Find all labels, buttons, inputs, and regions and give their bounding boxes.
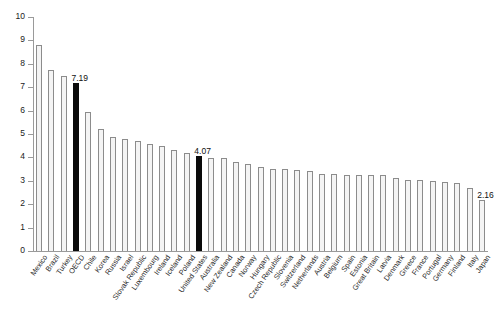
bar-poland[interactable] [184,153,190,251]
bar-austria[interactable] [319,174,325,251]
bar-estonia[interactable] [356,175,362,251]
y-tick: 0 [28,251,33,252]
bar-brazil[interactable] [48,70,54,251]
y-tick-label: 0 [20,245,25,256]
bar-australia[interactable] [208,158,214,251]
bar-mexico[interactable] [36,45,42,251]
y-tick-label: 3 [20,175,25,186]
y-tick-mark [28,251,33,252]
bar-spain[interactable] [344,175,350,251]
bar-chart: 012345678910 7.194.072.16 MexicoBrazilTu… [0,0,498,318]
bar-slovenia[interactable] [282,169,288,251]
bar-luxembourg[interactable] [147,144,153,251]
bar-iceland[interactable] [171,150,177,251]
bar-value-label: 4.07 [194,146,211,156]
bar-slovak-republic[interactable] [135,141,141,251]
bar-united-states[interactable]: 4.07 [196,156,202,251]
bar-italy[interactable] [467,188,473,251]
bar-latvia[interactable] [380,175,386,251]
y-tick-label: 4 [20,151,25,162]
bar-canada[interactable] [233,162,239,251]
y-tick-label: 1 [20,222,25,233]
bar-germany[interactable] [442,182,448,251]
bar-great-britain[interactable] [368,175,374,251]
bar-france[interactable] [417,180,423,251]
bar-japan[interactable]: 2.16 [479,200,485,251]
y-tick-label: 9 [20,34,25,45]
bar-value-label: 2.16 [477,190,494,200]
bar-greece[interactable] [405,180,411,251]
bar-ireland[interactable] [159,146,165,251]
bar-israel[interactable] [122,139,128,251]
bar-value-label: 7.19 [71,73,88,83]
bar-portugal[interactable] [430,181,436,251]
bar-switzerland[interactable] [294,170,300,251]
y-tick-label: 6 [20,105,25,116]
bar-new-zealand[interactable] [221,158,227,251]
bar-czech-republic[interactable] [270,169,276,251]
bar-oecd[interactable]: 7.19 [73,83,79,251]
bar-denmark[interactable] [393,178,399,251]
y-tick-label: 8 [20,58,25,69]
bar-hungary[interactable] [258,167,264,251]
x-axis-labels: MexicoBrazilTurkeyOECDChileKoreaRussiaIs… [33,253,488,318]
bar-netherlands[interactable] [307,171,313,251]
bar-norway[interactable] [245,164,251,251]
y-tick-label: 2 [20,198,25,209]
x-axis-line [33,251,488,252]
y-tick-label: 7 [20,81,25,92]
bar-belgium[interactable] [331,174,337,251]
bar-russia[interactable] [110,137,116,251]
y-tick-label: 5 [20,128,25,139]
bar-finland[interactable] [454,183,460,251]
bar-chile[interactable] [85,112,91,251]
y-tick-label: 10 [16,11,25,22]
bar-turkey[interactable] [61,76,67,252]
bar-korea[interactable] [98,129,104,251]
plot-area: 7.194.072.16 [33,17,488,251]
